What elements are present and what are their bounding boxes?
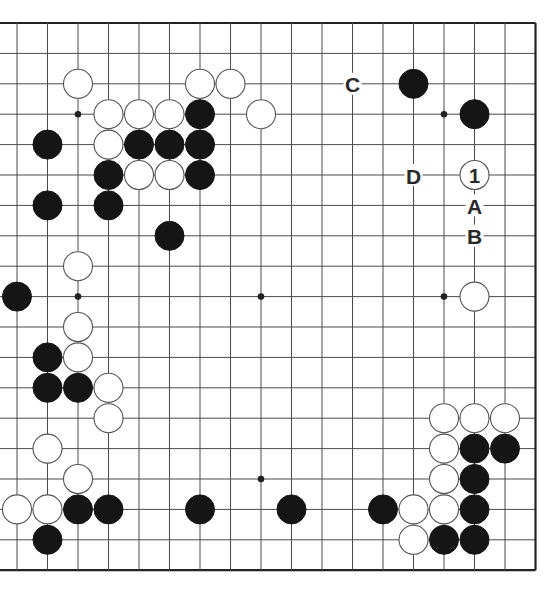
star-point xyxy=(75,293,82,300)
black-stone xyxy=(186,495,215,524)
white-stone xyxy=(216,69,245,98)
white-stone xyxy=(399,525,428,554)
white-stone xyxy=(64,69,93,98)
black-stone xyxy=(94,161,123,190)
black-stone xyxy=(94,191,123,220)
black-stone xyxy=(33,191,62,220)
black-stone xyxy=(460,465,489,494)
white-stone xyxy=(64,343,93,372)
star-point xyxy=(258,476,265,483)
black-stone xyxy=(33,130,62,159)
black-stone xyxy=(186,130,215,159)
white-stone xyxy=(247,100,276,129)
star-point xyxy=(75,111,82,118)
white-stone xyxy=(155,100,184,129)
black-stone xyxy=(460,495,489,524)
white-stone xyxy=(94,404,123,433)
white-stone xyxy=(125,100,154,129)
svg-text:D: D xyxy=(406,165,421,188)
go-board-diagram: 1 CDAB xyxy=(0,0,545,590)
svg-text:A: A xyxy=(467,195,482,218)
black-stone xyxy=(64,495,93,524)
black-stone xyxy=(64,373,93,402)
white-stone xyxy=(125,161,154,190)
svg-text:C: C xyxy=(345,73,360,96)
white-stone xyxy=(430,404,459,433)
black-stone xyxy=(33,525,62,554)
black-stone xyxy=(125,130,154,159)
white-stone xyxy=(460,404,489,433)
white-stone xyxy=(64,313,93,342)
white-stone xyxy=(430,495,459,524)
white-stone xyxy=(430,434,459,463)
white-stone xyxy=(94,100,123,129)
black-stone xyxy=(460,525,489,554)
black-stone xyxy=(186,100,215,129)
svg-text:B: B xyxy=(467,225,482,248)
star-point xyxy=(441,111,448,118)
black-stone xyxy=(155,130,184,159)
black-stone xyxy=(430,525,459,554)
black-stone xyxy=(277,495,306,524)
move-number: 1 xyxy=(469,165,480,187)
black-stone xyxy=(94,495,123,524)
black-stone xyxy=(460,434,489,463)
white-stone xyxy=(94,130,123,159)
numbered-white-stone: 1 xyxy=(460,161,489,190)
black-stone xyxy=(369,495,398,524)
white-stone xyxy=(33,434,62,463)
point-label-d: D xyxy=(405,164,423,188)
white-stone xyxy=(33,495,62,524)
white-stone xyxy=(399,495,428,524)
black-stone xyxy=(155,221,184,250)
white-stone xyxy=(155,161,184,190)
white-stone xyxy=(491,404,520,433)
white-stone xyxy=(186,69,215,98)
black-stone xyxy=(491,434,520,463)
white-stone xyxy=(64,465,93,494)
point-label-b: B xyxy=(466,225,484,249)
black-stone xyxy=(33,373,62,402)
star-point xyxy=(258,293,265,300)
black-stone xyxy=(460,100,489,129)
white-stone xyxy=(64,252,93,281)
point-label-c: C xyxy=(344,73,362,97)
star-point xyxy=(441,293,448,300)
black-stone xyxy=(399,69,428,98)
black-stone xyxy=(33,343,62,372)
white-stone xyxy=(3,495,32,524)
white-stone xyxy=(460,282,489,311)
go-board: 1 CDAB xyxy=(0,0,545,590)
point-label-a: A xyxy=(466,194,484,218)
white-stone xyxy=(430,465,459,494)
black-stone xyxy=(186,161,215,190)
black-stone xyxy=(3,282,32,311)
white-stone xyxy=(94,373,123,402)
